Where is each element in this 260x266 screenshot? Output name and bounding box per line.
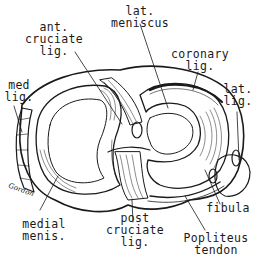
medial-meniscus (36, 85, 121, 194)
label-line: lig. (0, 91, 38, 103)
label-coronary-lig: coronary lig. (160, 48, 240, 72)
label-line: tendon (176, 244, 256, 256)
tibial-plateau-outline (20, 66, 244, 211)
label-medial-menis: medial menis. (12, 218, 76, 242)
label-line: meniscus (100, 17, 180, 29)
label-ant-cruciate-lig: ant. cruciate lig. (14, 21, 94, 57)
popliteus-tendon (150, 182, 220, 197)
label-line: menis. (12, 230, 76, 242)
label-line: lig. (160, 60, 240, 72)
leader-ant-cruciate (75, 52, 122, 124)
label-popliteus-tendon: Popliteus tendon (176, 232, 256, 256)
label-fibula: fibula (198, 202, 258, 214)
label-lat-meniscus: lat. meniscus (100, 5, 180, 29)
leader-fibula (205, 170, 220, 204)
knee-anatomy-diagram: ant. cruciate lig. lat. meniscus coronar… (0, 0, 260, 266)
label-line: lig. (100, 236, 170, 248)
label-line: lig. (218, 95, 258, 107)
label-lat-lig: lat. lig. (218, 83, 258, 107)
label-line: fibula (198, 202, 258, 214)
leader-lat-lig (237, 112, 239, 160)
label-med-lig: med lig. (0, 79, 38, 103)
label-line: lig. (14, 45, 94, 57)
label-post-cruciate-lig: post cruciate lig. (100, 212, 170, 248)
posterior-cruciate-ligament (115, 152, 148, 200)
